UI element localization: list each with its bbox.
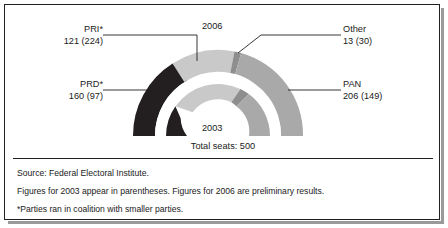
- label-pri-figures: 121 (224): [17, 36, 103, 48]
- ring-label-2003: 2003: [202, 123, 222, 133]
- callout-line-other: [238, 35, 341, 53]
- label-prd-figures: 160 (97): [17, 91, 103, 103]
- label-other-figures: 13 (30): [343, 36, 433, 48]
- label-pan: PAN 206 (149): [343, 79, 433, 102]
- card-shadow-right: [441, 8, 444, 224]
- callout-line-pri: [103, 35, 197, 61]
- footnote-divider: [13, 158, 433, 159]
- footnote-coalition: *Parties ran in coalition with smaller p…: [17, 204, 183, 214]
- label-prd-name: PRD*: [17, 79, 103, 91]
- label-other-name: Other: [343, 24, 433, 36]
- footnote-source: Source: Federal Electoral Institute.: [17, 168, 149, 178]
- label-prd: PRD* 160 (97): [17, 79, 103, 102]
- chart-plot-area: PRI* 121 (224) PRD* 160 (97) Other 13 (3…: [5, 5, 441, 156]
- label-other: Other 13 (30): [343, 24, 433, 47]
- chart-card: PRI* 121 (224) PRD* 160 (97) Other 13 (3…: [4, 4, 440, 220]
- label-pri: PRI* 121 (224): [17, 24, 103, 47]
- label-pan-figures: 206 (149): [343, 91, 433, 103]
- card-shadow-bottom: [8, 221, 444, 224]
- total-seats-label: Total seats: 500: [5, 141, 441, 151]
- label-pri-name: PRI*: [17, 24, 103, 36]
- label-pan-name: PAN: [343, 79, 433, 91]
- footnote-figures: Figures for 2003 appear in parentheses. …: [17, 186, 324, 196]
- ring-label-2006: 2006: [202, 21, 222, 31]
